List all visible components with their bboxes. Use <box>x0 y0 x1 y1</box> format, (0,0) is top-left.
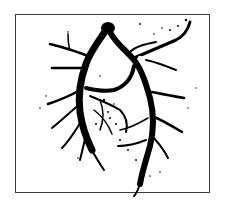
branching-tree-silhouette <box>0 0 226 208</box>
